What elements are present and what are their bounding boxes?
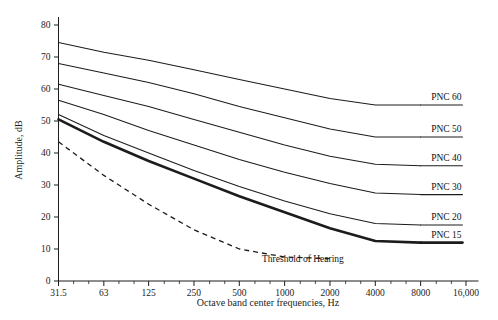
x-axis-title: Octave band center frequencies, Hz (197, 297, 340, 308)
y-axis-tick-label: 30 (41, 180, 51, 190)
curve-label-pnc-40: PNC 40 (431, 153, 462, 163)
y-axis-tick-label: 40 (41, 148, 51, 158)
y-axis-tick-label: 70 (41, 52, 51, 62)
y-axis-title: Amplitude, dB (13, 120, 24, 180)
curve-label-pnc-60: PNC 60 (431, 92, 462, 102)
x-axis-tick-label: 63 (99, 288, 109, 298)
curve-label-pnc-15: PNC 15 (431, 230, 462, 240)
y-axis-tick-label: 10 (41, 244, 51, 254)
y-axis-tick-label: 0 (46, 276, 51, 286)
x-axis-tick-label: 8000 (411, 288, 430, 298)
curve-pnc-50 (59, 63, 421, 137)
chart-canvas: 01020304050607080 31.5631252505001000200… (0, 0, 498, 320)
y-axis-tick-label: 60 (41, 84, 51, 94)
x-axis-tick-label: 125 (142, 288, 157, 298)
pnc-curves-chart: 01020304050607080 31.5631252505001000200… (0, 0, 498, 320)
y-axis-tick-labels: 01020304050607080 (41, 20, 51, 286)
curve-pnc-40 (59, 84, 421, 166)
pnc-curve-series (59, 43, 463, 259)
x-axis-tick-label: 31.5 (50, 288, 67, 298)
y-axis-tick-label: 50 (41, 116, 51, 126)
chart-annotations: Threshold of Hearing (262, 254, 344, 264)
annotation-threshold-of-hearing: Threshold of Hearing (262, 254, 344, 264)
x-axis-tick-label: 16,000 (453, 288, 479, 298)
curve-pnc-20 (59, 115, 421, 225)
curve-label-pnc-50: PNC 50 (431, 124, 462, 134)
curve-pnc-60 (59, 43, 421, 105)
curve-label-pnc-30: PNC 30 (431, 182, 462, 192)
y-axis-tick-label: 80 (41, 20, 51, 30)
chart-tick-marks (54, 25, 466, 286)
y-axis-tick-label: 20 (41, 212, 51, 222)
curve-label-pnc-20: PNC 20 (431, 212, 462, 222)
curve-threshold-of-hearing (59, 142, 330, 259)
x-axis-tick-label: 4000 (366, 288, 385, 298)
